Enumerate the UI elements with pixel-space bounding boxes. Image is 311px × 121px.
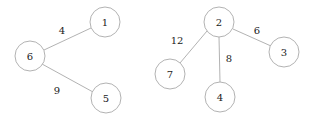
graph-node[interactable]: 3 xyxy=(269,37,299,67)
edge-2-3 xyxy=(233,29,271,46)
edge-6-1 xyxy=(44,28,91,50)
edge-layer xyxy=(42,28,271,92)
node-label: 6 xyxy=(27,51,33,62)
node-label: 2 xyxy=(216,17,222,28)
graph-node[interactable]: 2 xyxy=(204,7,234,37)
graph-node[interactable]: 6 xyxy=(15,41,45,71)
graph-node[interactable]: 5 xyxy=(91,83,121,113)
edge-weight-label: 6 xyxy=(254,25,260,36)
node-label: 7 xyxy=(167,69,173,80)
node-label: 1 xyxy=(102,17,108,28)
edge-weight-label: 9 xyxy=(54,85,60,96)
node-layer: 1 6 5 2 7 4 3 xyxy=(15,7,299,113)
edge-2-7 xyxy=(180,31,207,63)
edge-2-4 xyxy=(219,37,220,82)
edge-weight-label: 4 xyxy=(59,25,65,36)
edge-6-5 xyxy=(42,64,93,92)
graph-diagram: 4 9 12 8 6 1 6 5 2 7 4 xyxy=(0,0,311,121)
graph-node[interactable]: 7 xyxy=(155,59,185,89)
node-label: 4 xyxy=(217,92,223,103)
node-label: 5 xyxy=(103,93,109,104)
edge-weight-label: 12 xyxy=(171,35,184,46)
node-label: 3 xyxy=(281,47,287,58)
graph-node[interactable]: 4 xyxy=(205,82,235,112)
graph-node[interactable]: 1 xyxy=(90,7,120,37)
edge-weight-label: 8 xyxy=(226,53,232,64)
